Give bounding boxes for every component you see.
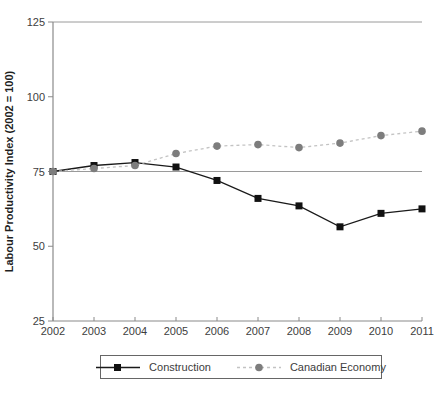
y-tick-label-75: 75 xyxy=(33,166,45,178)
data-point-canadian-economy-2009 xyxy=(336,139,344,147)
legend-label-canadian-economy: Canadian Economy xyxy=(290,361,386,373)
data-point-construction-2006 xyxy=(214,177,221,184)
data-point-construction-2010 xyxy=(378,210,385,217)
y-axis-title: Labour Productivity Index (2002 = 100) xyxy=(3,70,15,272)
y-tick-label-125: 125 xyxy=(27,16,45,28)
x-tick-label-2009: 2009 xyxy=(328,325,352,337)
x-tick-label-2006: 2006 xyxy=(205,325,229,337)
series-line-construction xyxy=(53,163,422,227)
y-tick-label-50: 50 xyxy=(33,240,45,252)
x-tick-label-2007: 2007 xyxy=(246,325,270,337)
series-line-canadian-economy xyxy=(53,131,422,171)
x-tick-label-2008: 2008 xyxy=(287,325,311,337)
data-point-canadian-economy-2008 xyxy=(295,144,303,152)
data-point-construction-2005 xyxy=(173,164,180,171)
legend-item-construction: Construction xyxy=(96,361,211,373)
x-tick-label-2010: 2010 xyxy=(369,325,393,337)
y-tick-label-100: 100 xyxy=(27,91,45,103)
construction-line-sample xyxy=(96,363,140,372)
legend-label-construction: Construction xyxy=(149,361,211,373)
data-point-canadian-economy-2007 xyxy=(254,141,262,149)
chart-legend: Construction Canadian Economy xyxy=(100,355,382,379)
data-point-canadian-economy-2003 xyxy=(90,165,98,173)
data-point-canadian-economy-2005 xyxy=(172,150,180,158)
canadian-economy-line-sample xyxy=(237,363,281,372)
x-tick-label-2004: 2004 xyxy=(123,325,147,337)
data-point-canadian-economy-2002 xyxy=(49,168,57,176)
x-tick-label-2011: 2011 xyxy=(410,325,434,337)
data-point-construction-2007 xyxy=(255,195,262,202)
labour-productivity-chart-figure: 2550751001252002200320042005200620072008… xyxy=(0,0,445,394)
data-point-canadian-economy-2010 xyxy=(377,132,385,140)
data-point-construction-2008 xyxy=(296,202,303,209)
legend-item-canadian-economy: Canadian Economy xyxy=(237,361,386,373)
data-point-canadian-economy-2011 xyxy=(418,127,426,135)
data-point-canadian-economy-2006 xyxy=(213,142,221,150)
data-point-construction-2009 xyxy=(337,223,344,230)
x-tick-label-2003: 2003 xyxy=(82,325,106,337)
line-chart-plot: 2550751001252002200320042005200620072008… xyxy=(0,0,445,394)
x-tick-label-2002: 2002 xyxy=(41,325,65,337)
x-tick-label-2005: 2005 xyxy=(164,325,188,337)
data-point-canadian-economy-2004 xyxy=(131,162,139,170)
data-point-construction-2011 xyxy=(419,205,426,212)
